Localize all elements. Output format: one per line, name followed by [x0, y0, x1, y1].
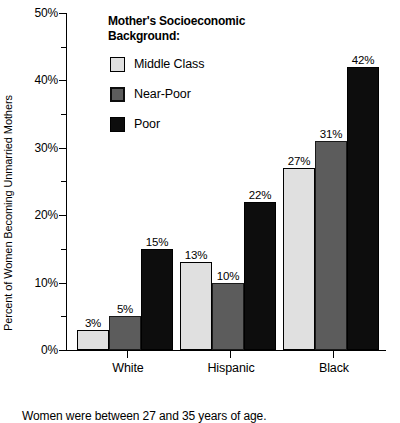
x-axis-tick [127, 351, 128, 358]
middle-class-swatch-icon [110, 57, 125, 72]
y-axis-major-tick [59, 215, 67, 216]
y-tick-label: 20% [20, 209, 58, 221]
poor-swatch-icon [110, 117, 125, 132]
y-axis-major-tick [59, 13, 67, 14]
bar-value-black-poor: 42% [339, 54, 387, 66]
legend-item-label: Poor [134, 117, 160, 132]
y-axis-tick-labels: 50% 40% 30% 20% 10% 0% [20, 0, 58, 422]
bar-value-hispanic-middle-class: 13% [172, 249, 220, 261]
bar-value-hispanic-near-poor: 10% [204, 270, 252, 282]
bar-group-black: 27% 31% 42% [283, 13, 379, 350]
y-axis-major-tick [59, 148, 67, 149]
legend-item-label: Near-Poor [134, 87, 191, 102]
y-tick-label: 50% [20, 7, 58, 19]
bar-value-white-poor: 15% [133, 236, 181, 248]
bar-value-white-near-poor: 5% [101, 303, 149, 315]
bar-value-white-middle-class: 3% [69, 317, 117, 329]
bar-value-black-near-poor: 31% [307, 128, 355, 140]
y-axis-major-tick [59, 283, 67, 284]
y-axis-title: Percent of Women Becoming Unmarried Moth… [0, 0, 16, 76]
y-axis-major-tick [59, 350, 67, 351]
bar-black-poor[interactable] [347, 67, 379, 350]
legend-title: Mother's Socioeconomic Background: [108, 14, 308, 43]
bar-white-poor[interactable] [141, 249, 173, 350]
bar-black-middle-class[interactable] [283, 168, 315, 350]
x-axis-line [66, 350, 386, 351]
x-axis-category-label-white: White [83, 361, 173, 375]
bar-value-black-middle-class: 27% [275, 155, 323, 167]
legend-item-label: Middle Class [134, 57, 204, 72]
bar-black-near-poor[interactable] [315, 141, 347, 350]
near-poor-swatch-icon [110, 87, 125, 102]
legend: Mother's Socioeconomic Background: Middl… [108, 14, 308, 43]
x-axis-tick [333, 351, 334, 358]
x-axis-tick [230, 351, 231, 358]
x-axis-category-label-black: Black [289, 361, 379, 375]
x-axis-category-label-hispanic: Hispanic [186, 361, 276, 375]
bar-white-middle-class[interactable] [77, 330, 109, 350]
y-axis-major-tick [59, 80, 67, 81]
y-tick-label: 10% [20, 277, 58, 289]
y-tick-label: 0% [20, 344, 58, 356]
y-tick-label: 30% [20, 142, 58, 154]
chart-footnote: Women were between 27 and 35 years of ag… [22, 409, 266, 423]
bar-value-hispanic-poor: 22% [236, 189, 284, 201]
y-tick-label: 40% [20, 74, 58, 86]
bar-hispanic-near-poor[interactable] [212, 283, 244, 350]
y-axis-title-label: Percent of Women Becoming Unmarried Moth… [0, 68, 16, 358]
